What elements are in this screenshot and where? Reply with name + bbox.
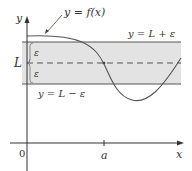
epsilon-lower-label: ε: [34, 69, 39, 79]
intersection-point: [103, 62, 106, 65]
y-axis-arrow-icon: [25, 16, 30, 23]
limit-L-label: L: [13, 56, 22, 70]
lower-line-label: y = L − ε: [37, 88, 85, 99]
upper-line-label: y = L + ε: [127, 28, 175, 39]
epsilon-band-diagram: y x 0 a L ε ε y = f(x) y = L + ε y = L −…: [0, 0, 192, 171]
a-label: a: [101, 149, 108, 162]
epsilon-upper-label: ε: [34, 48, 39, 58]
curve-label: y = f(x): [63, 6, 105, 19]
y-axis-label: y: [15, 12, 23, 25]
origin-label: 0: [19, 148, 25, 159]
pointer-arrow-icon: [45, 29, 49, 34]
curve-label-pointer: [47, 15, 62, 32]
x-axis-arrow-icon: [177, 141, 184, 146]
x-axis-label: x: [176, 148, 183, 161]
